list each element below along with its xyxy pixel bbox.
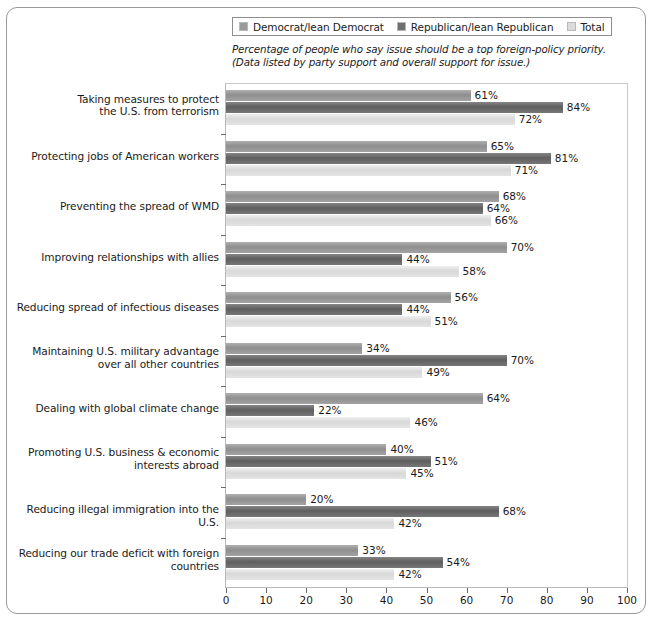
legend-label-republican: Republican/lean Republican	[411, 21, 554, 33]
bar-value-label: 44%	[406, 304, 429, 315]
bar-value-label: 40%	[390, 444, 413, 455]
category-label: Dealing with global climate change	[14, 402, 219, 415]
bar-democrat[interactable]	[226, 242, 507, 253]
bar-republican[interactable]	[226, 304, 402, 315]
bar-row-democrat: 61%	[226, 90, 498, 101]
bar-democrat[interactable]	[226, 444, 386, 455]
bar-democrat[interactable]	[226, 494, 306, 505]
chart-page: Democrat/lean DemocratRepublican/lean Re…	[0, 0, 655, 625]
category-label-line: Protecting jobs of American workers	[14, 150, 219, 163]
bar-row-republican: 81%	[226, 153, 578, 164]
bar-value-label: 44%	[406, 254, 429, 265]
bar-row-total: 66%	[226, 215, 518, 226]
category-label-line: Promoting U.S. business & economic	[14, 446, 219, 459]
bar-total[interactable]	[226, 114, 515, 125]
legend-item-republican[interactable]: Republican/lean Republican	[397, 21, 554, 33]
bar-row-total: 51%	[226, 316, 458, 327]
bar-row-democrat: 33%	[226, 545, 386, 556]
bar-republican[interactable]	[226, 254, 402, 265]
bar-row-democrat: 68%	[226, 191, 526, 202]
bar-democrat[interactable]	[226, 292, 451, 303]
bar-row-republican: 44%	[226, 254, 430, 265]
bar-total[interactable]	[226, 417, 410, 428]
bar-row-total: 58%	[226, 266, 486, 277]
bar-row-democrat: 70%	[226, 242, 534, 253]
bar-value-label: 33%	[362, 545, 385, 556]
category-label: Reducing illegal immigration into the U.…	[14, 503, 219, 528]
category-label-line: Reducing illegal immigration into the U.…	[14, 503, 219, 528]
bar-group: 56%44%51%	[226, 286, 627, 337]
bar-value-label: 58%	[463, 266, 486, 277]
x-axis-label: 100	[617, 594, 637, 606]
bar-democrat[interactable]	[226, 90, 471, 101]
legend-item-total[interactable]: Total	[567, 21, 605, 33]
chart-subtitle: Percentage of people who say issue shoul…	[232, 43, 632, 69]
bar-row-republican: 54%	[226, 557, 470, 568]
bar-value-label: 64%	[487, 393, 510, 404]
bar-democrat[interactable]	[226, 141, 487, 152]
bar-value-label: 45%	[410, 468, 433, 479]
bar-republican[interactable]	[226, 203, 483, 214]
bar-republican[interactable]	[226, 506, 499, 517]
category-label-line: Preventing the spread of WMD	[14, 200, 219, 213]
category-label: Protecting jobs of American workers	[14, 150, 219, 163]
bar-republican[interactable]	[226, 102, 563, 113]
category-label-line: over all other countries	[14, 358, 219, 371]
bar-row-republican: 51%	[226, 456, 458, 467]
bar-total[interactable]	[226, 266, 459, 277]
bar-total[interactable]	[226, 367, 422, 378]
bar-row-republican: 84%	[226, 102, 590, 113]
bar-row-total: 46%	[226, 417, 438, 428]
bar-total[interactable]	[226, 215, 491, 226]
bar-row-republican: 22%	[226, 405, 342, 416]
bar-row-democrat: 34%	[226, 343, 390, 354]
bar-democrat[interactable]	[226, 343, 362, 354]
bar-value-label: 54%	[447, 557, 470, 568]
x-axis-label: 80	[540, 594, 553, 606]
bar-republican[interactable]	[226, 355, 507, 366]
x-axis-tick	[226, 588, 227, 593]
bar-total[interactable]	[226, 316, 431, 327]
bar-row-total: 42%	[226, 569, 422, 580]
category-label: Promoting U.S. business & economicintere…	[14, 446, 219, 471]
bar-democrat[interactable]	[226, 393, 483, 404]
bar-row-democrat: 40%	[226, 444, 414, 455]
bar-row-democrat: 56%	[226, 292, 478, 303]
bar-value-label: 70%	[511, 242, 534, 253]
legend-swatch-republican	[397, 22, 406, 31]
bar-value-label: 56%	[455, 292, 478, 303]
x-axis-tick	[507, 588, 508, 593]
x-axis-tick	[306, 588, 307, 593]
legend-item-democrat[interactable]: Democrat/lean Democrat	[239, 21, 384, 33]
x-axis-label: 40	[380, 594, 393, 606]
bar-republican[interactable]	[226, 405, 314, 416]
bar-total[interactable]	[226, 468, 406, 479]
category-label: Reducing spread of infectious diseases	[14, 301, 219, 314]
bar-republican[interactable]	[226, 153, 551, 164]
category-label-line: interests abroad	[14, 459, 219, 472]
bar-value-label: 51%	[435, 316, 458, 327]
bar-row-total: 42%	[226, 518, 422, 529]
category-label-line: Reducing spread of infectious diseases	[14, 301, 219, 314]
bar-total[interactable]	[226, 518, 394, 529]
bar-total[interactable]	[226, 165, 511, 176]
bar-democrat[interactable]	[226, 545, 358, 556]
bar-value-label: 61%	[475, 90, 498, 101]
x-axis-tick	[467, 588, 468, 593]
bar-republican[interactable]	[226, 557, 443, 568]
category-label: Reducing our trade deficit with foreignc…	[14, 547, 219, 572]
bar-group: 33%54%42%	[226, 539, 627, 590]
bar-value-label: 51%	[435, 456, 458, 467]
bar-value-label: 49%	[426, 367, 449, 378]
x-axis-label: 50	[420, 594, 433, 606]
bar-democrat[interactable]	[226, 191, 499, 202]
x-axis: 0102030405060708090100	[225, 588, 628, 612]
bar-value-label: 22%	[318, 405, 341, 416]
bar-group: 65%81%71%	[226, 135, 627, 186]
x-axis-tick	[386, 588, 387, 593]
bar-total[interactable]	[226, 569, 394, 580]
x-axis-tick	[587, 588, 588, 593]
x-axis-label: 10	[259, 594, 272, 606]
bar-republican[interactable]	[226, 456, 431, 467]
bar-groups: 61%84%72%65%81%71%68%64%66%70%44%58%56%4…	[226, 84, 627, 587]
